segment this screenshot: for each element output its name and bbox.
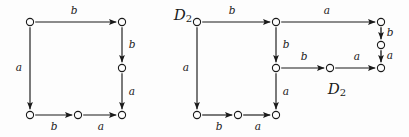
edge-label-b: b [129, 38, 136, 50]
node-L2 [118, 64, 125, 71]
edge-label-b: b [216, 120, 223, 132]
node-R7 [193, 111, 200, 118]
node-L0 [26, 18, 33, 25]
node-R8 [234, 111, 241, 118]
edge-label-a: a [324, 4, 330, 16]
edge-label-a: a [16, 61, 22, 73]
node-L5 [118, 111, 125, 118]
node-L4 [74, 111, 81, 118]
node-R6 [377, 64, 384, 71]
node-R5 [326, 64, 333, 71]
node-R1 [272, 18, 279, 25]
edge-label-b: b [71, 4, 78, 16]
diagram-label-inner: D2 [327, 80, 346, 98]
node-L3 [26, 111, 33, 118]
diagram-canvas: bbaabababababaaba D2D2 [0, 0, 409, 137]
edge-label-a: a [183, 61, 189, 73]
edge-label-a: a [354, 50, 360, 62]
node-R4 [272, 64, 279, 71]
edge-label-a: a [255, 120, 261, 132]
node-R2 [377, 18, 384, 25]
edge-label-b: b [387, 26, 394, 38]
edge-label-a: a [387, 49, 393, 61]
edge-label-b: b [51, 120, 58, 132]
node-R9 [272, 111, 279, 118]
edge-label-b: b [229, 4, 236, 16]
node-R3 [377, 41, 384, 48]
node-L1 [118, 18, 125, 25]
edge-label-a: a [98, 120, 104, 132]
node-R0 [193, 18, 200, 25]
diagram-label-top: D2 [173, 6, 192, 24]
diagram-svg-root: bbaabababababaaba D2D2 [0, 0, 409, 137]
edge-label-b: b [301, 50, 308, 62]
edge-label-a: a [283, 85, 289, 97]
edge-label-a: a [129, 85, 135, 97]
edge-label-b: b [283, 38, 290, 50]
nodes-layer [26, 18, 384, 118]
